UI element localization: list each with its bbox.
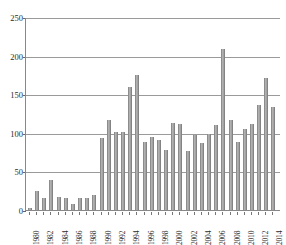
bar-1996 [143, 142, 147, 210]
x-tick-label-1990: 1990 [104, 231, 113, 245]
plot-area [25, 18, 280, 211]
y-axis: 050100150200250 [0, 0, 23, 243]
bar-1989 [92, 195, 96, 210]
x-tick-mark-1980 [29, 212, 30, 215]
x-tick-mark-1997 [151, 212, 152, 215]
x-tick-mark-1981 [36, 212, 37, 215]
y-tick-label-200: 200 [1, 53, 23, 61]
x-tick-label-2008: 2008 [233, 231, 242, 245]
x-tick-label-2000: 2000 [175, 231, 184, 245]
x-tick-label-2010: 2010 [247, 231, 256, 245]
x-tick-label-1992: 1992 [118, 231, 127, 245]
x-tick-mark-2002 [187, 212, 188, 215]
x-tick-mark-2009 [237, 212, 238, 215]
bar-1988 [85, 198, 89, 210]
x-tick-mark-1990 [101, 212, 102, 215]
x-tick-label-1998: 1998 [161, 231, 170, 245]
bar-2013 [264, 78, 268, 210]
x-axis: 1980198219841986198819901992199419961998… [25, 212, 280, 243]
bar-2005 [207, 134, 211, 210]
bar-1985 [64, 198, 68, 210]
x-tick-mark-2010 [244, 212, 245, 215]
bar-1993 [121, 132, 125, 210]
x-tick-mark-1995 [136, 212, 137, 215]
x-tick-mark-1986 [72, 212, 73, 215]
x-tick-mark-2012 [258, 212, 259, 215]
bar-2010 [243, 129, 247, 210]
x-tick-label-2014: 2014 [275, 231, 284, 245]
bar-1999 [164, 150, 168, 210]
bar-2014 [271, 107, 275, 210]
x-tick-mark-2005 [208, 212, 209, 215]
x-tick-label-1984: 1984 [61, 231, 70, 245]
x-tick-mark-2014 [272, 212, 273, 215]
x-tick-label-1994: 1994 [132, 231, 141, 245]
x-tick-label-2006: 2006 [218, 231, 227, 245]
bar-2011 [250, 124, 254, 210]
x-tick-label-2002: 2002 [190, 231, 199, 245]
bar-1990 [100, 138, 104, 210]
bar-2007 [221, 49, 225, 210]
x-tick-mark-1992 [115, 212, 116, 215]
x-tick-label-1980: 1980 [32, 231, 41, 245]
x-tick-mark-1996 [144, 212, 145, 215]
bar-2000 [171, 123, 175, 210]
x-tick-mark-1988 [86, 212, 87, 215]
y-tick-label-250: 250 [1, 14, 23, 22]
x-tick-label-1988: 1988 [89, 231, 98, 245]
x-tick-label-1982: 1982 [46, 231, 55, 245]
bar-2003 [193, 135, 197, 210]
bar-2004 [200, 143, 204, 210]
bar-1980 [28, 208, 32, 210]
x-tick-mark-1999 [165, 212, 166, 215]
x-tick-mark-2003 [194, 212, 195, 215]
bar-2006 [214, 125, 218, 210]
x-tick-mark-2007 [222, 212, 223, 215]
x-tick-label-1986: 1986 [75, 231, 84, 245]
y-tick-label-0: 0 [1, 207, 23, 215]
x-tick-mark-2008 [230, 212, 231, 215]
bar-1994 [128, 87, 132, 210]
x-tick-mark-1998 [158, 212, 159, 215]
bar-1992 [114, 132, 118, 210]
bar-1995 [135, 75, 139, 210]
bar-1984 [57, 197, 61, 210]
x-tick-mark-1989 [93, 212, 94, 215]
x-tick-mark-2001 [179, 212, 180, 215]
bar-1998 [157, 140, 161, 210]
bar-2002 [186, 151, 190, 210]
x-tick-mark-1985 [65, 212, 66, 215]
x-tick-mark-1983 [50, 212, 51, 215]
x-tick-mark-2000 [172, 212, 173, 215]
y-tick-label-100: 100 [1, 130, 23, 138]
bars-layer [26, 18, 280, 210]
x-tick-label-2012: 2012 [261, 231, 270, 245]
x-tick-label-1996: 1996 [147, 231, 156, 245]
bar-2009 [236, 142, 240, 210]
bar-1986 [71, 204, 75, 210]
x-tick-mark-2011 [251, 212, 252, 215]
x-tick-mark-1987 [79, 212, 80, 215]
bar-1983 [49, 180, 53, 210]
x-tick-mark-1991 [108, 212, 109, 215]
bar-1987 [78, 198, 82, 210]
bar-1982 [42, 198, 46, 210]
bar-2001 [178, 124, 182, 210]
x-tick-mark-1993 [122, 212, 123, 215]
x-tick-mark-2006 [215, 212, 216, 215]
x-tick-mark-1982 [43, 212, 44, 215]
y-tick-label-150: 150 [1, 91, 23, 99]
bar-2012 [257, 105, 261, 210]
x-tick-mark-2013 [265, 212, 266, 215]
bar-1981 [35, 191, 39, 210]
x-tick-label-2004: 2004 [204, 231, 213, 245]
bar-1997 [150, 137, 154, 210]
bar-1991 [107, 120, 111, 210]
x-tick-mark-1994 [129, 212, 130, 215]
bar-2008 [229, 120, 233, 210]
x-tick-mark-1984 [58, 212, 59, 215]
y-tick-label-50: 50 [1, 168, 23, 176]
x-tick-mark-2004 [201, 212, 202, 215]
